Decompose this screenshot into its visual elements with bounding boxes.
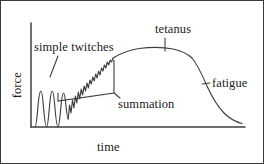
muscle-force-time-diagram: simple twitches tetanus fatigue summatio… <box>0 0 264 164</box>
x-axis-label: time <box>97 141 120 154</box>
y-axis-label: force <box>11 63 24 107</box>
label-summation: summation <box>118 98 174 111</box>
summation-trace <box>68 58 113 119</box>
axis-group <box>31 23 245 127</box>
simple-twitches-trace <box>35 91 68 127</box>
label-simple-twitches: simple twitches <box>34 41 114 54</box>
force-curve-group <box>35 47 242 127</box>
fatigue-trace <box>192 58 242 124</box>
simple-twitches-leader-line <box>50 56 58 77</box>
label-fatigue: fatigue <box>212 77 247 90</box>
summation-bracket <box>58 60 114 101</box>
fatigue-leader-line <box>202 83 210 84</box>
tetanus-trace <box>113 47 192 58</box>
label-tetanus: tetanus <box>155 23 191 36</box>
